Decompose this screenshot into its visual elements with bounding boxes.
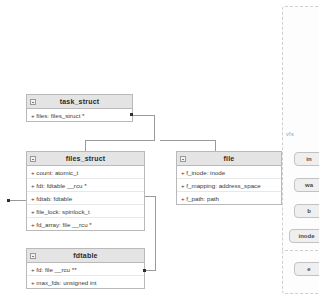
connector-files-fdtable-endpoint	[143, 269, 146, 272]
uml-attributes-file: + f_inode: inode + f_mapping: address_sp…	[177, 166, 281, 204]
vfs-node-4[interactable]: inode	[289, 229, 319, 243]
uml-header-files-struct[interactable]: files_struct	[27, 152, 144, 166]
connector-files-fdtable-seg1	[155, 196, 156, 270]
uml-class-name: task_struct	[60, 95, 100, 108]
uml-class-task-struct[interactable]: task_struct + files: files_struct *	[26, 94, 133, 122]
uml-attribute: + max_fds: unsigned int	[27, 275, 144, 288]
collapse-icon[interactable]	[30, 99, 36, 105]
uml-attributes-files-struct: + count: atomic_t + fdt: fdtable __rcu *…	[27, 166, 144, 230]
collapse-icon[interactable]	[180, 156, 186, 162]
vfs-node-5[interactable]: e	[294, 262, 319, 276]
connector-file-top-stub	[215, 140, 216, 151]
uml-attribute: + f_mapping: address_space	[177, 178, 281, 191]
vfs-node-5-label: e	[307, 262, 310, 276]
vfs-node-2-label: wa	[305, 178, 313, 192]
uml-attribute: + fd: file __rcu **	[27, 263, 144, 275]
uml-class-file[interactable]: file + f_inode: inode + f_mapping: addre…	[176, 151, 282, 205]
uml-class-name: fdtable	[73, 249, 97, 262]
vfs-node-1-label: in	[306, 152, 311, 166]
connector-files-fdtable-seg3	[145, 270, 156, 271]
connector-files-fdtable-seg2	[145, 196, 156, 197]
connector-task-files-seg4	[85, 140, 86, 151]
uml-attributes-fdtable: + fd: file __rcu ** + max_fds: unsigned …	[27, 263, 144, 288]
vfs-node-2[interactable]: wa	[294, 178, 319, 192]
vfs-panel-label: vfs	[286, 131, 294, 137]
vfs-node-3-label: b	[307, 204, 311, 218]
uml-attribute: + files: files_struct *	[27, 109, 132, 121]
connector-task-files-seg1	[133, 115, 155, 116]
uml-class-fdtable[interactable]: fdtable + fd: file __rcu ** + max_fds: u…	[26, 248, 145, 289]
vfs-node-3[interactable]: b	[294, 204, 319, 218]
uml-attribute: + count: atomic_t	[27, 166, 144, 178]
uml-attribute: + fdtab: fdtable	[27, 191, 144, 204]
uml-attribute: + f_inode: inode	[177, 166, 281, 178]
connector-task-files-seg2	[154, 115, 155, 140]
uml-class-name: files_struct	[66, 152, 106, 165]
diagram-canvas[interactable]: vfs in wa b inode e task_struct + files:…	[0, 0, 319, 294]
connector-left-stub	[8, 200, 26, 201]
uml-attribute: + fd_array: file __rcu *	[27, 217, 144, 230]
uml-class-name: file	[224, 152, 235, 165]
uml-attributes-task-struct: + files: files_struct *	[27, 109, 132, 121]
uml-attribute: + f_path: path	[177, 191, 281, 204]
collapse-icon[interactable]	[30, 253, 36, 259]
uml-attribute: + fdt: fdtable __rcu *	[27, 178, 144, 191]
vfs-node-4-label: inode	[299, 229, 315, 243]
uml-class-files-struct[interactable]: files_struct + count: atomic_t + fdt: fd…	[26, 151, 145, 231]
connector-task-files-seg3	[85, 140, 155, 141]
uml-header-fdtable[interactable]: fdtable	[27, 249, 144, 263]
connector-file-top-seg	[160, 140, 216, 141]
uml-attribute: + file_lock: spinlock_t	[27, 204, 144, 217]
uml-header-file[interactable]: file	[177, 152, 281, 166]
connector-task-files-endpoint	[130, 113, 133, 116]
connector-left-stub-endpoint	[7, 199, 10, 202]
collapse-icon[interactable]	[30, 156, 36, 162]
vfs-node-1[interactable]: in	[294, 152, 319, 166]
uml-header-task-struct[interactable]: task_struct	[27, 95, 132, 109]
